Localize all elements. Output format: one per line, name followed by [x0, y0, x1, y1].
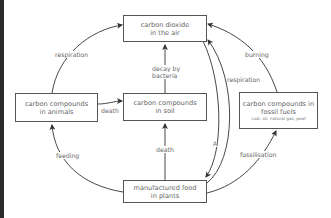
node-animals-line1: carbon compounds — [25, 100, 88, 108]
node-plants-line2: in plants — [151, 192, 179, 200]
node-plants: manufactured food in plants — [123, 180, 207, 203]
node-fossil-line2: fossil fuels — [261, 108, 296, 116]
label-animals-respiration: respiration — [55, 51, 88, 58]
node-animals: carbon compounds in animals — [15, 93, 98, 122]
label-feeding: feeding — [56, 152, 79, 159]
arrow-animals-death — [98, 101, 122, 104]
label-burning: burning — [245, 51, 269, 58]
label-animals-death: death — [101, 107, 119, 114]
node-soil-line1: carbon compounds — [133, 99, 196, 107]
node-fossil-line1: carbon compounds in — [243, 100, 314, 108]
arrow-animals-respiration — [52, 25, 122, 93]
label-fossilisation: fossilisation — [240, 151, 276, 158]
label-photosynthesis-A: A — [213, 140, 217, 147]
label-plants-respiration: respiration — [227, 76, 260, 83]
node-co2-in-air: carbon dioxide in the air — [123, 15, 207, 42]
arrow-fossilisation — [207, 131, 276, 193]
node-soil: carbon compounds in soil — [123, 93, 207, 121]
node-animals-line2: in animals — [40, 108, 74, 116]
label-decay-line2: bacteria — [152, 72, 177, 79]
label-plants-death: death — [156, 146, 174, 153]
label-decay-line1: decay by — [152, 65, 180, 72]
node-co2-line2: in the air — [150, 29, 180, 37]
node-soil-line2: in soil — [155, 107, 174, 115]
node-fossil-sub: coal, oil, natural gas, peat — [251, 116, 306, 122]
node-plants-line1: manufactured food — [133, 184, 196, 192]
node-co2-line1: carbon dioxide — [141, 21, 190, 29]
node-fossil-fuels: carbon compounds in fossil fuels coal, o… — [239, 92, 318, 129]
